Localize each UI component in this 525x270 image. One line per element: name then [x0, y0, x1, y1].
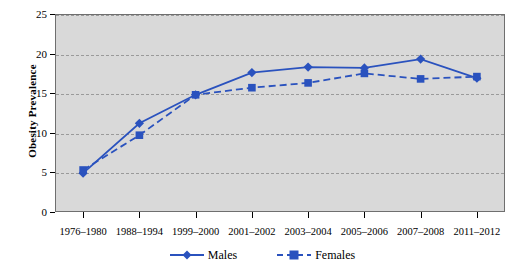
legend-marker-males-icon	[170, 249, 204, 261]
x-tick-label: 2007–2008	[397, 226, 444, 237]
legend-label-males: Males	[208, 248, 237, 263]
data-point-females[interactable]	[192, 91, 200, 99]
data-point-females[interactable]	[79, 166, 87, 174]
x-tick-mark	[196, 212, 197, 218]
x-tick-mark	[252, 212, 253, 218]
x-tick-mark	[308, 212, 309, 218]
y-tick-label: 20	[7, 49, 47, 59]
y-tick-label: 10	[7, 128, 47, 138]
data-series-layer	[55, 14, 505, 212]
data-point-females[interactable]	[304, 79, 312, 87]
x-tick-mark	[421, 212, 422, 218]
x-tick-mark	[477, 212, 478, 218]
y-tick-mark	[50, 212, 55, 213]
data-point-females[interactable]	[248, 84, 256, 92]
x-tick-label: 1988–1994	[116, 226, 163, 237]
x-tick-mark	[364, 212, 365, 218]
data-point-females[interactable]	[361, 70, 369, 78]
y-tick-label: 25	[7, 9, 47, 19]
x-tick-label: 2003–2004	[285, 226, 332, 237]
x-tick-label: 2011–2012	[453, 226, 500, 237]
y-tick-label: 15	[7, 88, 47, 98]
data-point-males[interactable]	[247, 68, 256, 77]
data-point-males[interactable]	[416, 55, 425, 64]
chart-legend: Males Females	[0, 244, 525, 266]
chart-figure: Obesity Prevalence 0510152025 1976–19801…	[0, 0, 525, 270]
x-tick-label: 1976–1980	[60, 226, 107, 237]
y-tick-label: 5	[7, 167, 47, 177]
legend-label-females: Females	[315, 248, 355, 263]
x-tick-label: 2001–2002	[228, 226, 275, 237]
data-point-males[interactable]	[304, 63, 313, 72]
x-tick-label: 1999–2000	[172, 226, 219, 237]
y-tick-label: 0	[7, 207, 47, 217]
x-tick-label: 2005–2006	[341, 226, 388, 237]
legend-marker-females-icon	[277, 249, 311, 261]
data-point-females[interactable]	[417, 75, 425, 83]
x-tick-mark	[139, 212, 140, 218]
x-tick-mark	[83, 212, 84, 218]
data-point-females[interactable]	[473, 73, 481, 81]
legend-item-males[interactable]: Males	[170, 248, 237, 263]
legend-item-females[interactable]: Females	[277, 248, 355, 263]
data-point-females[interactable]	[136, 131, 144, 139]
